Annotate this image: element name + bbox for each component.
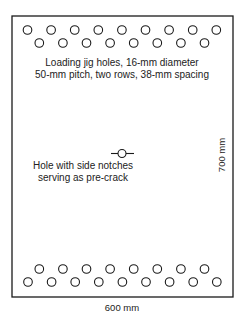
jig-hole-icon [200,265,209,274]
notched-hole-icon [111,150,134,158]
jig-hole-icon [153,265,162,274]
jig-hole-icon [35,39,44,48]
jig-hole-icon [70,26,79,35]
jig-holes-note-line1: Loading jig holes, 16-mm diameter [45,57,199,68]
jig-hole-icon [59,39,68,48]
jig-hole-icon [188,26,197,35]
jig-hole-icon [35,265,44,274]
jig-hole-icon [59,265,68,274]
jig-hole-icon [165,26,174,35]
specimen-diagram: Loading jig holes, 16-mm diameter 50-mm … [0,0,244,325]
top-jig-holes [23,26,220,48]
jig-hole-icon [118,26,127,35]
center-hole-note-line1: Hole with side notches [33,160,133,171]
jig-hole-icon [200,39,209,48]
jig-hole-icon [118,278,127,287]
jig-hole-icon [165,278,174,287]
jig-hole-icon [106,39,115,48]
jig-hole-icon [82,39,91,48]
jig-hole-icon [47,26,56,35]
jig-hole-icon [23,26,32,35]
jig-hole-icon [24,278,33,287]
width-dimension-label: 600 mm [105,302,139,313]
jig-hole-icon [212,26,221,35]
jig-hole-icon [106,265,115,274]
jig-hole-icon [213,278,222,287]
bottom-jig-holes [24,265,221,287]
jig-hole-icon [129,265,138,274]
jig-hole-icon [189,278,198,287]
jig-hole-icon [95,278,104,287]
jig-hole-icon [177,265,186,274]
jig-hole-icon [82,265,91,274]
jig-hole-icon [141,26,150,35]
jig-hole-icon [71,278,80,287]
jig-hole-icon [153,39,162,48]
height-dimension-label: 700 mm [216,138,227,172]
jig-holes-note-line2: 50-mm pitch, two rows, 38-mm spacing [35,69,209,80]
jig-hole-icon [47,278,56,287]
center-hole-note-line2: serving as pre-crack [38,172,129,183]
jig-hole-icon [142,278,151,287]
jig-hole-icon [177,39,186,48]
jig-hole-icon [94,26,103,35]
jig-hole-icon [129,39,138,48]
